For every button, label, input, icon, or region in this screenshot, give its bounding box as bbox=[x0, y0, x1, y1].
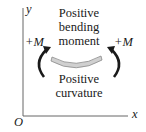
top-text-line-2: bending bbox=[52, 21, 106, 34]
bottom-text-line-1: Positive bbox=[52, 73, 106, 86]
top-text-line-3: moment bbox=[50, 35, 108, 48]
top-text-line-1: Positive bbox=[52, 7, 106, 20]
bending-moment-diagram: y x O Positive bending moment Positive c… bbox=[0, 0, 146, 132]
x-axis-label: x bbox=[132, 108, 138, 121]
origin-label: O bbox=[14, 116, 23, 129]
right-moment-arrow-icon bbox=[112, 50, 119, 77]
left-moment-arrow-icon bbox=[39, 50, 46, 77]
y-axis-label: y bbox=[26, 3, 32, 16]
right-moment-label: +M bbox=[114, 36, 133, 49]
left-moment-label: +M bbox=[25, 36, 44, 49]
curved-beam bbox=[51, 56, 102, 68]
bottom-text-line-2: curvature bbox=[46, 87, 112, 100]
